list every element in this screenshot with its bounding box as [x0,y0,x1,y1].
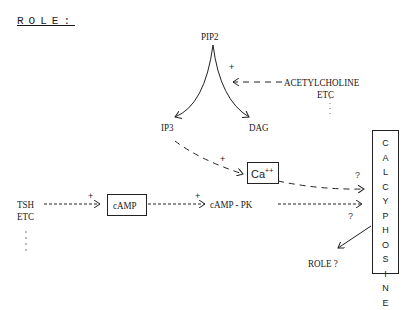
plus-sign: + [229,62,234,72]
node-acetylcholine: ACETYLCHOLINE [284,77,359,88]
node-ip3: IP3 [161,122,174,133]
node-tsh-etc: ETC [17,211,34,222]
node-ca: Ca [251,168,265,180]
node-calcyphosine-box: C A L C Y P H O S I N E [372,130,399,274]
calcyphosine-letter: N [373,281,398,296]
node-pip2: PIP2 [201,31,219,42]
calcyphosine-letter: E [373,296,398,310]
node-tsh: TSH [17,199,34,210]
node-camp: cAMP [113,200,137,211]
calcyphosine-letter: C [373,136,398,151]
calcyphosine-letter: H [373,223,398,238]
plus-sign: + [220,154,225,164]
node-camp-pk: cAMP - PK [210,199,252,210]
calcyphosine-letter: O [373,238,398,253]
plus-sign: + [195,191,200,201]
calcyphosine-letter: S [373,252,398,267]
question-mark: ? [355,170,360,180]
node-role: ROLE ? [308,258,338,269]
calcyphosine-letter: C [373,180,398,195]
node-camp-box: cAMP [107,194,147,216]
calcyphosine-letter: P [373,209,398,224]
node-ca-box: Ca++ [247,162,279,184]
question-mark: ? [348,211,353,221]
node-dag: DAG [249,122,269,133]
node-ca-charge: ++ [265,167,273,174]
calcyphosine-letter: L [373,165,398,180]
plus-sign: + [88,191,93,201]
calcyphosine-letter: Y [373,194,398,209]
node-acetylcholine-etc: ETC [317,89,334,100]
calcyphosine-letter: A [373,151,398,166]
calcyphosine-letter: I [373,267,398,282]
